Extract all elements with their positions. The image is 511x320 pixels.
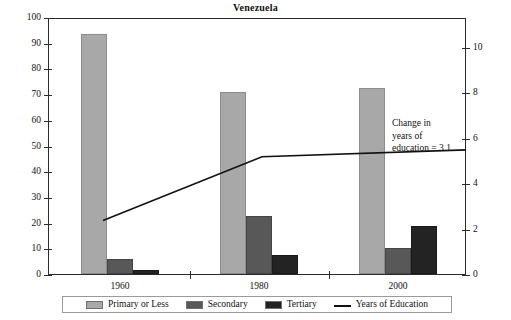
legend-swatch-icon-secondary bbox=[186, 301, 203, 309]
legend-line-icon-education bbox=[334, 301, 351, 309]
chart-container: Venezuela 0102030405060708090100 0246810… bbox=[0, 0, 511, 320]
legend-label-education: Years of Education bbox=[356, 300, 428, 310]
y-tick-label-left: 60 bbox=[32, 116, 42, 126]
annotation-line-3: education = 3.1 bbox=[392, 142, 504, 155]
legend-swatch-icon-primary bbox=[86, 301, 103, 309]
y-tick-right bbox=[462, 275, 470, 276]
y-tick-label-right: 4 bbox=[473, 179, 478, 189]
legend-label-tertiary: Tertiary bbox=[287, 300, 317, 310]
legend-item-secondary: Secondary bbox=[186, 300, 248, 310]
y-tick-label-left: 80 bbox=[32, 65, 42, 75]
y-tick-label-left: 10 bbox=[32, 245, 42, 255]
x-tick-label: 1980 bbox=[250, 282, 269, 292]
y-tick-label-left: 70 bbox=[32, 90, 42, 100]
legend-label-primary: Primary or Less bbox=[108, 300, 169, 310]
y-tick-label-right: 8 bbox=[473, 88, 478, 98]
y-tick-label-left: 100 bbox=[27, 13, 41, 23]
legend-item-primary-or-less: Primary or Less bbox=[86, 300, 169, 310]
y-tick-label-left: 0 bbox=[36, 270, 41, 280]
legend-item-years-of-education: Years of Education bbox=[334, 300, 428, 310]
y-tick-label-left: 20 bbox=[32, 219, 42, 229]
x-tick-label: 1960 bbox=[111, 282, 130, 292]
annotation-line-2: years of bbox=[392, 130, 504, 143]
chart-legend: Primary or Less Secondary Tertiary Years… bbox=[62, 296, 452, 313]
y-tick-label-left: 50 bbox=[32, 142, 42, 152]
x-tick-label: 2000 bbox=[389, 282, 408, 292]
legend-swatch-icon-tertiary bbox=[265, 301, 282, 309]
y-tick-label-right: 2 bbox=[473, 225, 478, 235]
legend-label-secondary: Secondary bbox=[208, 300, 248, 310]
legend-item-tertiary: Tertiary bbox=[265, 300, 317, 310]
y-tick-label-left: 40 bbox=[32, 167, 42, 177]
y-tick-left bbox=[44, 275, 52, 276]
y-tick-label-right: 0 bbox=[473, 270, 478, 280]
annotation-line-1: Change in bbox=[392, 117, 504, 130]
chart-title: Venezuela bbox=[0, 2, 511, 13]
y-tick-label-right: 10 bbox=[473, 43, 483, 53]
change-annotation: Change in years of education = 3.1 bbox=[392, 117, 504, 155]
y-tick-label-left: 30 bbox=[32, 193, 42, 203]
y-tick-label-left: 90 bbox=[32, 39, 42, 49]
